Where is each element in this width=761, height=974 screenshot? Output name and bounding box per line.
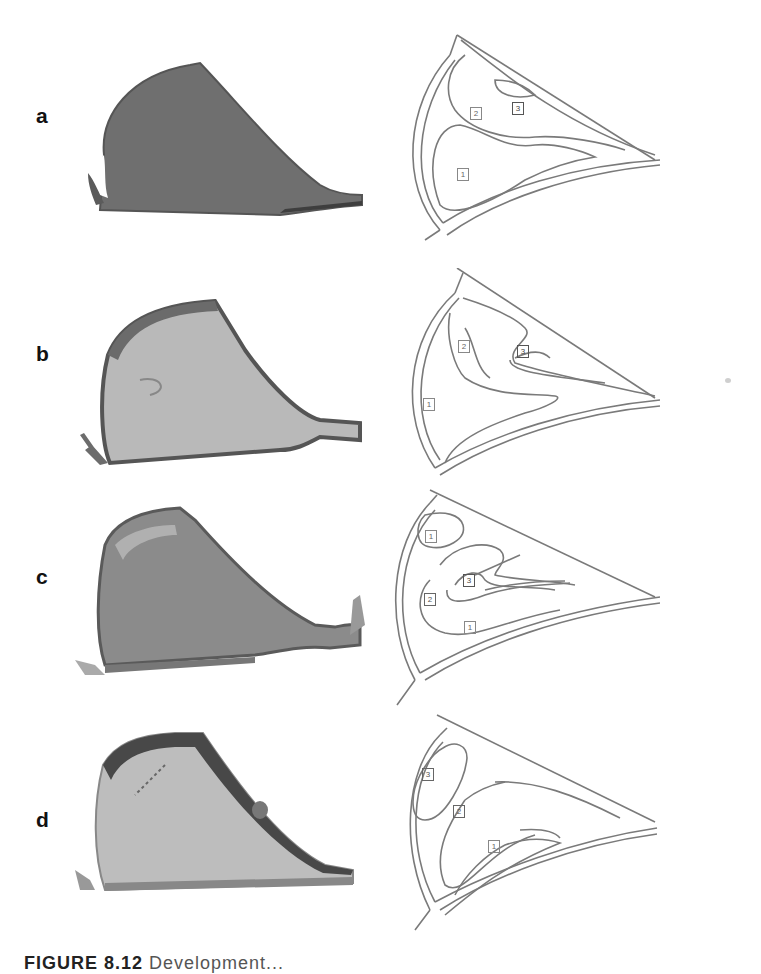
region-label-a-2: 2 — [470, 107, 482, 120]
schematic-diagram-d — [395, 710, 675, 935]
specimen-photo-d — [75, 725, 365, 895]
region-label-c-2: 2 — [424, 593, 436, 606]
region-label-b-3: 3 — [517, 345, 529, 358]
region-label-c-3: 3 — [463, 574, 475, 587]
region-label-c-1-lower: 1 — [464, 621, 476, 634]
specimen-photo-a — [80, 55, 370, 225]
panel-label-d: d — [36, 808, 49, 832]
region-label-d-3: 3 — [422, 768, 434, 781]
schematic-diagram-b — [395, 268, 675, 483]
region-label-c-1-upper: 1 — [425, 530, 437, 543]
scan-artifact — [725, 378, 731, 383]
region-label-d-1: 1 — [488, 840, 500, 853]
specimen-photo-b — [80, 295, 370, 470]
region-label-d-2: 2 — [453, 805, 465, 818]
panel-label-c: c — [36, 565, 48, 589]
specimen-photo-c — [75, 505, 375, 685]
region-label-a-3: 3 — [512, 102, 524, 115]
figure-caption-text: Development... — [143, 953, 284, 973]
region-label-b-1: 1 — [423, 398, 435, 411]
figure-caption: FIGURE 8.12 Development... — [24, 953, 284, 974]
panel-label-b: b — [36, 342, 49, 366]
region-label-a-1: 1 — [457, 168, 469, 181]
schematic-diagram-a — [395, 25, 675, 250]
region-label-b-2: 2 — [458, 340, 470, 353]
panel-label-a: a — [36, 104, 48, 128]
figure-caption-prefix: FIGURE 8.12 — [24, 953, 143, 973]
